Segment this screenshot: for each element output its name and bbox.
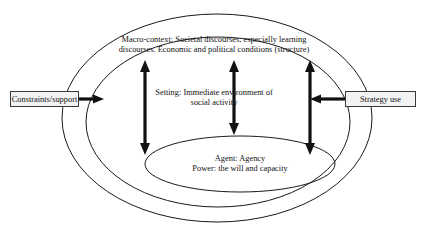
macro-context-label-line-1: Macro-context: Societal discourses, espe…	[50, 35, 378, 45]
diagram-canvas: Macro-context: Societal discourses, espe…	[0, 0, 428, 237]
macro-context-label: Macro-context: Societal discourses, espe…	[50, 35, 378, 56]
agent-label-line-2: Power: the will and capacity	[140, 164, 340, 174]
strategy-use-label: Strategy use	[360, 95, 401, 104]
agent-label: Agent: Agency Power: the will and capaci…	[140, 154, 340, 175]
agent-label-line-1: Agent: Agency	[140, 154, 340, 164]
right-vertical-arrow	[305, 60, 315, 155]
setting-label-line-1: Setting: Immediate environment of	[128, 88, 300, 98]
strategy-inward-arrow	[310, 95, 345, 104]
macro-context-label-line-2: discourses. Economic and political condi…	[50, 45, 378, 55]
constraints-support-box: Constraints/support	[10, 91, 79, 107]
strategy-use-box: Strategy use	[345, 91, 416, 107]
constraints-inward-arrow	[79, 95, 104, 104]
constraints-support-label: Constraints/support	[12, 95, 78, 104]
setting-label: Setting: Immediate environment of social…	[128, 88, 300, 109]
setting-label-line-2: social activity	[128, 98, 300, 108]
